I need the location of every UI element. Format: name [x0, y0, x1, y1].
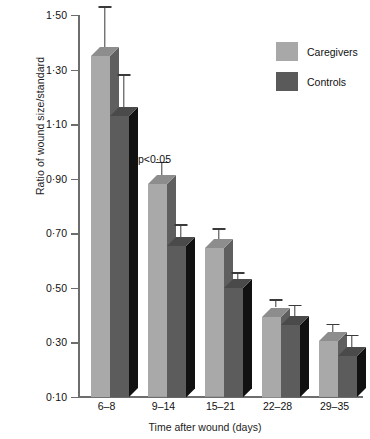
bar-shape [281, 316, 309, 397]
legend-item-caregivers: Caregivers [276, 42, 358, 61]
y-tick-label-4: 0·90 [21, 173, 67, 185]
y-tick-0 [71, 397, 79, 398]
error-bar-cap [118, 74, 131, 76]
bar-chart: Ratio of wound size/standard 0·100·300·5… [0, 0, 370, 439]
bar-shape [110, 107, 138, 397]
error-bar-controls-2 [231, 272, 245, 279]
error-bar-controls-3 [288, 305, 302, 316]
error-bar-stem [180, 224, 181, 236]
bar-controls-4 [338, 347, 366, 397]
significance-annotation: p<0·05 [138, 153, 171, 165]
error-bar-controls-0 [117, 74, 131, 107]
error-bar-caregivers-4 [326, 324, 340, 332]
bar-shape [224, 279, 252, 397]
y-tick-label-7: 1·50 [21, 9, 67, 21]
legend-item-controls: Controls [276, 72, 358, 91]
bar-front [281, 325, 300, 397]
bar-front [262, 317, 281, 397]
error-bar-controls-1 [174, 224, 188, 236]
bar-shape [167, 237, 195, 397]
error-bar-cap [346, 335, 359, 337]
y-tick-label-6: 1·30 [21, 64, 67, 76]
x-tick-label-1: 9–14 [135, 400, 192, 412]
bar-front [91, 56, 110, 397]
bar-side [186, 237, 195, 397]
x-tick-label-2: 15–21 [192, 400, 249, 412]
legend-swatch-caregivers [276, 42, 298, 61]
bar-controls-1 [167, 237, 195, 397]
y-tick-label-1: 0·30 [21, 336, 67, 348]
error-bar-cap [327, 324, 340, 326]
bar-controls-0 [110, 107, 138, 397]
error-bar-cap [99, 6, 112, 8]
bar-shape [338, 347, 366, 397]
x-tick-label-4: 29–35 [306, 400, 363, 412]
x-axis-title: Time after wound (days) [0, 421, 370, 433]
error-bar-cap [232, 272, 245, 274]
error-bar-caregivers-2 [212, 228, 226, 239]
bar-front [148, 184, 167, 397]
bar-front [319, 341, 338, 397]
error-bar-stem [294, 305, 295, 316]
error-bar-caregivers-0 [98, 6, 112, 47]
error-bar-stem [218, 228, 219, 239]
error-bar-stem [123, 74, 124, 107]
y-tick-label-2: 0·50 [21, 282, 67, 294]
legend-swatch-controls [276, 72, 298, 91]
error-bar-cap [270, 299, 283, 301]
error-bar-stem [104, 6, 105, 47]
y-tick-label-5: 1·10 [21, 118, 67, 130]
legend: Caregivers Controls [276, 42, 358, 102]
error-bar-cap [289, 305, 302, 307]
bar-front [205, 248, 224, 397]
error-bar-cap [213, 228, 226, 230]
y-tick-label-0: 0·10 [21, 391, 67, 403]
error-bar-controls-4 [345, 335, 359, 347]
bar-controls-2 [224, 279, 252, 397]
bar-front [110, 116, 129, 397]
bar-front [167, 246, 186, 397]
bar-side [243, 279, 252, 397]
error-bar-stem [351, 335, 352, 347]
bar-front [338, 356, 357, 397]
error-bar-cap [175, 224, 188, 226]
bar-side [129, 107, 138, 397]
x-tick-label-3: 22–28 [249, 400, 306, 412]
legend-label-controls: Controls [307, 76, 346, 88]
bar-controls-3 [281, 316, 309, 397]
y-tick-label-3: 0·70 [21, 227, 67, 239]
bar-front [224, 288, 243, 397]
error-bar-caregivers-3 [269, 299, 283, 307]
legend-label-caregivers: Caregivers [307, 46, 358, 58]
x-axis-title-text: Time after wound (days) [109, 421, 262, 433]
bar-side [300, 316, 309, 397]
x-tick-label-0: 6–8 [78, 400, 135, 412]
